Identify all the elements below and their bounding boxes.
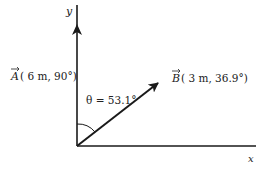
y-axis-label: y <box>65 5 73 18</box>
vector-b-symbol: B <box>171 72 180 85</box>
vector-diagram: y x A ( 6 m, 90°) B ( 3 m, 36.9°) θ = 53… <box>0 0 268 170</box>
vector-a-params: ( 6 m, 90°) <box>20 70 77 82</box>
angle-arc <box>77 124 95 132</box>
angle-annotation: θ = 53.1° <box>86 94 136 106</box>
x-axis-label: x <box>248 153 254 164</box>
vector-b-params: ( 3 m, 36.9°) <box>181 72 248 84</box>
vector-a-symbol: A <box>10 70 19 83</box>
vector-b <box>77 83 158 146</box>
